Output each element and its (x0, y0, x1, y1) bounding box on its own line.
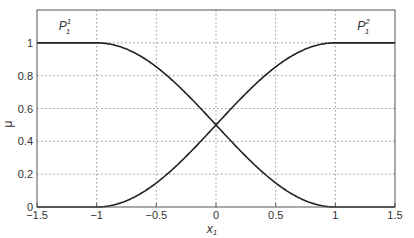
y-tick-label: 0.4 (18, 135, 33, 147)
x-tick-labels: −1.5−1−0.500.511.5 (26, 209, 403, 221)
y-tick-label: 0 (27, 201, 33, 213)
y-axis-label: μ (1, 120, 15, 127)
x-tick-label: −1 (90, 209, 103, 221)
membership-function-chart: −1.5−1−0.500.511.5 00.20.40.60.81 μ x1 P… (0, 0, 414, 238)
y-tick-labels: 00.20.40.60.81 (18, 37, 33, 213)
curve-label: P21 (357, 17, 370, 36)
curve-label: P11 (59, 17, 71, 36)
y-tick-label: 1 (27, 37, 33, 49)
grid-lines (37, 10, 395, 207)
y-tick-label: 0.2 (18, 168, 33, 180)
x-tick-label: 0 (213, 209, 219, 221)
x-tick-label: −0.5 (145, 209, 167, 221)
x-tick-label: 1 (332, 209, 338, 221)
x-tick-label: 0.5 (268, 209, 283, 221)
x-axis-label: x1 (206, 222, 217, 237)
y-tick-label: 0.6 (18, 103, 33, 115)
curve-annotations: P11P21 (59, 17, 370, 36)
y-tick-label: 0.8 (18, 70, 33, 82)
x-tick-label: 1.5 (387, 209, 402, 221)
